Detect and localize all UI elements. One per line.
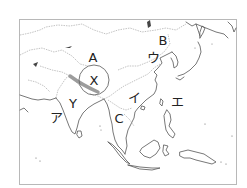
label-katakana-a: ア [50,111,63,124]
label-b: B [159,34,168,47]
label-c: C [114,112,123,125]
label-katakana-i: イ [128,91,141,104]
label-a: A [89,51,98,64]
label-katakana-u: ウ [147,51,160,64]
label-y: Y [69,97,77,110]
label-x: X [90,74,99,87]
label-katakana-e: エ [171,95,184,108]
asia-map [0,0,247,188]
